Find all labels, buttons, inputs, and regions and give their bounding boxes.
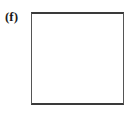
empty-square bbox=[31, 12, 124, 105]
empty-square-interior bbox=[32, 14, 123, 103]
figure-panel: (f) bbox=[0, 0, 131, 113]
panel-label: (f) bbox=[5, 10, 18, 24]
